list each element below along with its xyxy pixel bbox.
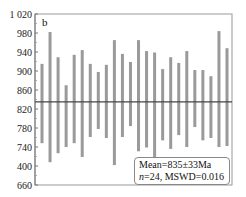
error-bar <box>185 51 188 147</box>
error-bar <box>226 48 229 146</box>
error-bar <box>129 62 132 126</box>
error-bar <box>81 50 84 157</box>
mean-text: Mean=835±33Ma <box>139 159 225 171</box>
y-tick-label: 860 <box>17 85 32 96</box>
statistics-box: Mean=835±33Ma n=24, MSWD=0.016 <box>134 157 230 185</box>
error-bar <box>145 51 148 147</box>
y-tick-label: 900 <box>17 66 32 77</box>
error-bar <box>177 63 180 135</box>
error-bar <box>209 76 212 138</box>
error-bar <box>193 70 196 127</box>
error-bar <box>97 72 100 129</box>
error-bar <box>161 69 164 140</box>
error-bar <box>73 55 76 143</box>
error-bar <box>201 70 204 140</box>
n-mswd-values: =24, MSWD=0.016 <box>144 171 224 182</box>
error-bar <box>121 54 124 137</box>
y-tick-label: 980 <box>17 28 32 39</box>
y-tick-label: 780 <box>17 123 32 134</box>
error-bar <box>49 32 52 162</box>
error-bar <box>89 64 92 137</box>
y-tick-label: 940 <box>17 47 32 58</box>
panel-label: b <box>42 16 48 28</box>
n-mswd-text: n=24, MSWD=0.016 <box>139 171 225 183</box>
y-axis: 6604007407808208609009409801 020 <box>10 9 39 191</box>
error-bars <box>41 31 229 165</box>
y-tick-label: 1 020 <box>10 9 33 20</box>
y-tick-label: 740 <box>17 142 32 153</box>
y-tick-label: 820 <box>17 104 32 115</box>
error-bar <box>153 52 156 160</box>
error-bar <box>65 85 68 147</box>
error-bar <box>217 31 220 147</box>
error-bar <box>41 64 44 143</box>
y-tick-label: 660 <box>17 180 32 191</box>
error-bar <box>57 57 60 153</box>
error-bar <box>169 57 172 149</box>
y-tick-label: 400 <box>17 161 32 172</box>
error-bar <box>113 40 116 165</box>
error-bar <box>137 40 140 151</box>
